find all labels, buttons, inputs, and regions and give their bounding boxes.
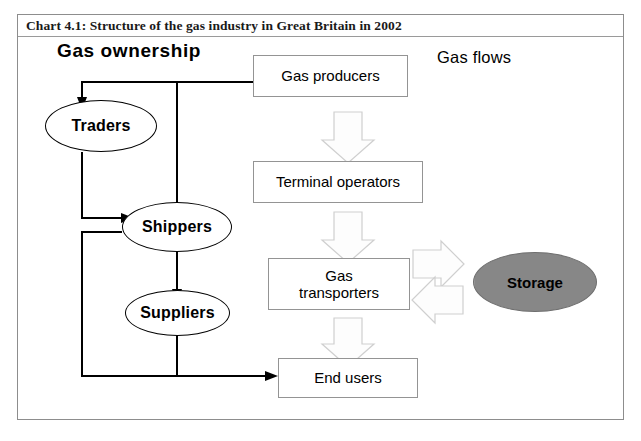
node-gas-producers: Gas producers [253,55,408,97]
node-label: End users [314,369,382,386]
node-storage: Storage [473,252,597,312]
node-gas-transporters: Gas transporters [268,258,410,310]
chart-title: Chart 4.1: Structure of the gas industry… [26,18,402,34]
node-label-line2: transporters [299,284,379,301]
node-label: Terminal operators [276,173,400,190]
node-terminal-operators: Terminal operators [253,161,423,203]
node-label: Gas producers [281,67,379,84]
node-label: Suppliers [140,304,215,322]
node-label-line1: Gas [325,267,353,284]
node-label: Shippers [142,218,212,236]
column-heading-gas-flows: Gas flows [437,48,511,67]
chart-canvas: Chart 4.1: Structure of the gas industry… [0,0,641,441]
node-traders: Traders [45,100,157,152]
node-label: Traders [71,117,130,135]
node-end-users: End users [278,358,418,398]
column-heading-gas-ownership: Gas ownership [57,40,201,62]
node-shippers: Shippers [122,202,232,252]
title-divider [18,36,623,37]
node-label: Storage [507,274,563,291]
node-suppliers: Suppliers [125,290,230,336]
